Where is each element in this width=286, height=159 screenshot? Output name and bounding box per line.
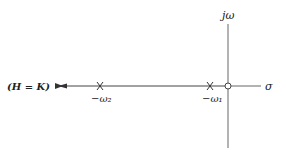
pole-omega1-label: −ω₁ bbox=[202, 93, 223, 104]
zero-origin bbox=[225, 83, 231, 89]
pole-omega2-label: −ω₂ bbox=[91, 93, 112, 104]
arrow-left-icon bbox=[58, 84, 67, 89]
s-plane-diagram: jω σ −ω₂ −ω₁ (H = K) bbox=[0, 0, 286, 159]
locus-end-label: (H = K) bbox=[7, 81, 50, 92]
sigma-axis-label: σ bbox=[265, 80, 273, 93]
jw-axis-label: jω bbox=[219, 9, 234, 22]
